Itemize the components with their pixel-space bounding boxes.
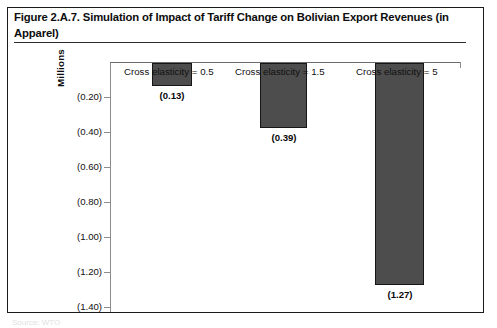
- y-tick-mark: [104, 272, 110, 273]
- y-tick-label: (0.80): [56, 197, 102, 207]
- y-tick-label: (0.20): [56, 92, 102, 102]
- bar-value-label-2: (1.27): [360, 289, 440, 300]
- y-tick-label: (0.60): [56, 162, 102, 172]
- y-axis-title: Millions: [55, 46, 69, 90]
- figure-root: Figure 2.A.7. Simulation of Impact of Ta…: [0, 0, 497, 328]
- y-tick-label: (0.40): [56, 127, 102, 137]
- y-tick-mark: [104, 132, 110, 133]
- bar-value-label-0: (0.13): [132, 90, 212, 101]
- source-note: Source: WTO: [12, 318, 60, 327]
- y-tick-mark: [104, 202, 110, 203]
- bar-category-label-2: Cross elasticity = 5: [356, 66, 438, 77]
- y-axis-line: [110, 62, 111, 312]
- y-tick-label: (1.20): [56, 267, 102, 277]
- y-tick-mark: [104, 97, 110, 98]
- y-tick-mark: [104, 167, 110, 168]
- bar-category-label-0: Cross elasticity = 0.5: [124, 66, 214, 77]
- chart-plot-area: Millions (0.20) (0.40) (0.60) (0.80) (1.…: [0, 0, 497, 328]
- bar-value-label-1: (0.39): [244, 132, 324, 143]
- y-tick-mark: [104, 307, 110, 308]
- y-tick-mark: [104, 237, 110, 238]
- bar-category-label-1: Cross elasticity = 1.5: [235, 66, 325, 77]
- zero-baseline-end-tick: [460, 62, 461, 68]
- bar-cross-elasticity-5[interactable]: [375, 63, 424, 285]
- y-tick-label: (1.00): [56, 232, 102, 242]
- y-tick-label: (1.40): [56, 302, 102, 312]
